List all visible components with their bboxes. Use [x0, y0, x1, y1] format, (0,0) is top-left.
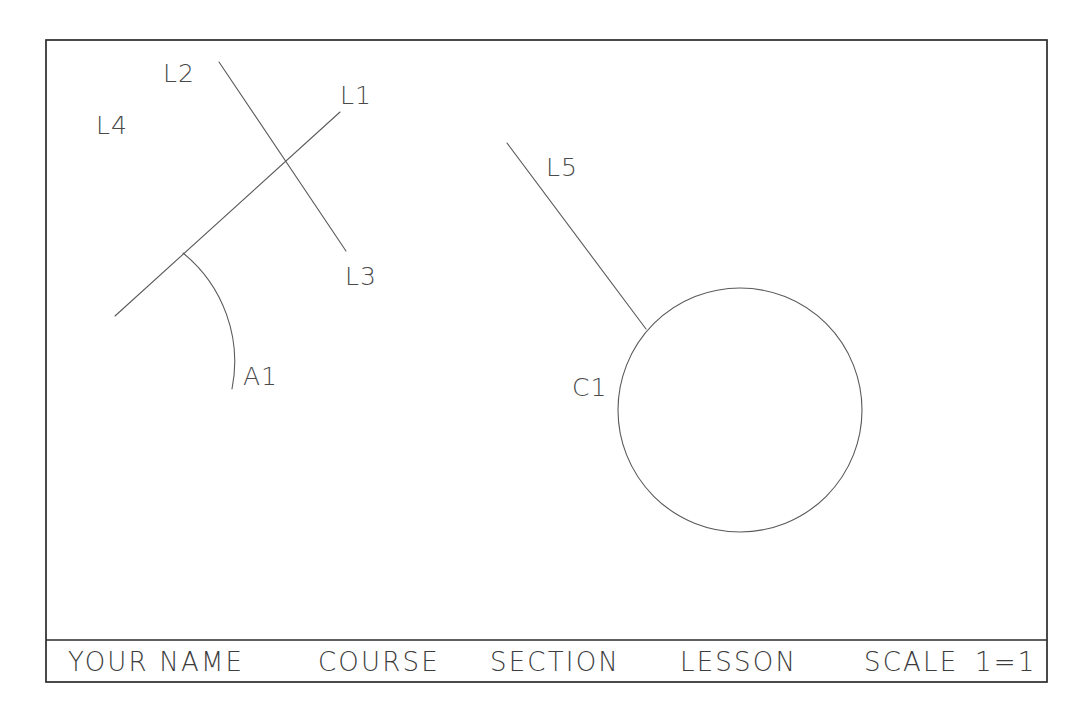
label-a1: A1	[243, 362, 278, 391]
title-block-course-field[interactable]: COURSE	[318, 647, 440, 677]
line-l4-l1[interactable]	[115, 112, 340, 316]
label-l2: L2	[163, 59, 195, 88]
cad-drawing-canvas[interactable]: L1 L2 L3 L4 L5 A1 C1 YOUR NAME COURSE SE…	[0, 0, 1086, 723]
label-c1: C1	[572, 373, 607, 402]
sheet-border	[46, 40, 1047, 682]
label-l3: L3	[345, 262, 377, 291]
arc-a1[interactable]	[183, 253, 235, 389]
title-block-scale-label: SCALE	[864, 647, 958, 677]
label-l1: L1	[340, 81, 372, 110]
drawing-sheet: L1 L2 L3 L4 L5 A1 C1 YOUR NAME COURSE SE…	[0, 0, 1086, 723]
label-l5: L5	[546, 153, 578, 182]
circle-c1[interactable]	[618, 288, 862, 532]
label-l4: L4	[96, 111, 128, 140]
title-block-section-field[interactable]: SECTION	[490, 647, 620, 677]
title-block-scale-value[interactable]: 1=1	[975, 647, 1036, 677]
title-block-name-field[interactable]: YOUR NAME	[68, 647, 244, 677]
title-block-lesson-field[interactable]: LESSON	[680, 647, 797, 677]
line-l2-l3[interactable]	[219, 62, 346, 251]
